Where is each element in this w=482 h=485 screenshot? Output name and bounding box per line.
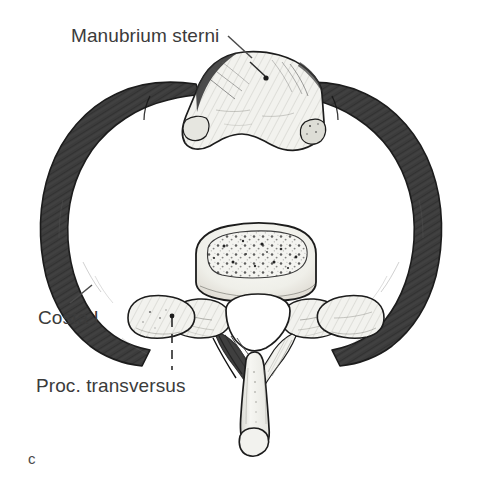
label-proc-transversus: Proc. transversus [36,375,186,397]
transverse-process-left [128,295,195,338]
transverse-process-right [317,295,384,338]
figure-letter: c [28,450,36,467]
label-costa-i: Costa I [38,307,99,329]
label-manubrium-sterni: Manubrium sterni [71,25,219,47]
anatomy-illustration [0,0,482,485]
vertebral-body [196,223,316,302]
anatomical-figure: Manubrium sterni Costa I Proc. transvers… [0,0,482,485]
